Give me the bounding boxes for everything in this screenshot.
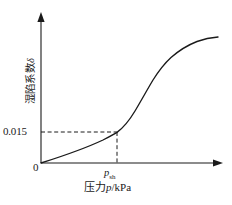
- y-axis-tick-label-0015: 0.015: [3, 126, 27, 137]
- x-axis-tick-label-psh: psh: [104, 168, 115, 181]
- y-axis-title-wrapper: 湿陷系数δ: [22, 42, 36, 120]
- collapse-coefficient-figure: 0.015 0 湿陷系数δ psh 压力p/kPa: [0, 0, 232, 205]
- x-tick-subscript: sh: [109, 173, 115, 181]
- x-axis-arrow-icon: [213, 159, 223, 166]
- collapse-coefficient-curve: [41, 37, 218, 163]
- origin-label: 0: [33, 162, 39, 173]
- y-axis-symbol: δ: [25, 58, 36, 63]
- x-axis-title: 压力p/kPa: [84, 182, 131, 193]
- y-axis-title: 湿陷系数δ: [22, 58, 37, 104]
- y-axis-arrow-icon: [37, 12, 44, 22]
- y-axis-title-text: 湿陷系数: [24, 63, 36, 104]
- x-axis-unit: /kPa: [112, 181, 132, 193]
- x-axis-title-text: 压力: [84, 181, 106, 194]
